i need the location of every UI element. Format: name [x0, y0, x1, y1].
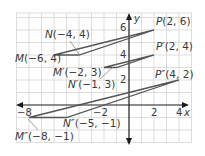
coordinate-plane: −8 −2 2 4 x 2 4 6 y P(2, 6) N(−4, 4) M(−…	[0, 0, 205, 156]
y-tick-2: 2	[120, 74, 126, 85]
tick-labels: −8 −2 2 4 x 2 4 6 y	[17, 13, 190, 118]
y-axis-label: y	[133, 13, 141, 24]
label-M-double-prime: M″(−8, −1)	[15, 130, 74, 142]
y-axis-down-arrow-icon	[126, 138, 132, 145]
x-tick-neg8: −8	[17, 107, 32, 118]
x-tick-4: 4	[176, 107, 182, 118]
label-P: P(2, 6)	[156, 15, 191, 27]
label-N-prime: N′(−1, 3)	[68, 78, 115, 90]
x-axis-label: x	[183, 107, 190, 118]
label-P-prime: P′(2, 4)	[156, 40, 193, 52]
x-tick-2: 2	[151, 107, 157, 118]
label-M: M(−6, 4)	[15, 52, 61, 64]
y-tick-6: 6	[120, 22, 126, 33]
label-N-double-prime: N″(−5, −1)	[63, 117, 121, 129]
y-axis-up-arrow-icon	[126, 13, 132, 20]
label-M-prime: M′(−2, 3)	[53, 66, 101, 78]
label-N: N(−4, 4)	[45, 28, 90, 40]
label-P-double-prime: P″(4, 2)	[155, 68, 194, 80]
y-tick-4: 4	[120, 49, 126, 60]
coordinate-plane-diagram: −8 −2 2 4 x 2 4 6 y P(2, 6) N(−4, 4) M(−…	[0, 0, 205, 156]
